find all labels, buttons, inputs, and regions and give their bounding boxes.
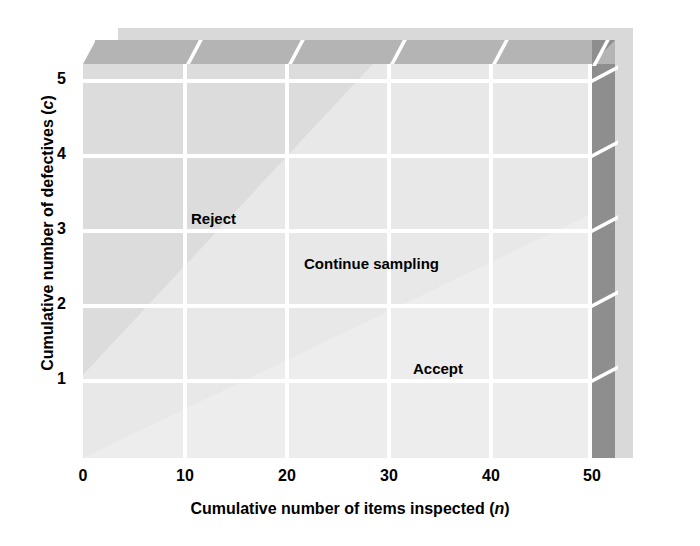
- gridline-x-40: [489, 64, 493, 458]
- y-axis-title-text: Cumulative number of defectives (: [39, 109, 56, 370]
- xtick-label-0: 0: [79, 467, 88, 485]
- y-axis-title-suffix: ): [39, 95, 56, 100]
- xtick-label-50: 50: [583, 467, 601, 485]
- block-top-face: [95, 40, 615, 64]
- y-axis-title-variable: c: [39, 101, 56, 110]
- xtick-label-30: 30: [380, 467, 398, 485]
- gridline-x-50: [588, 64, 592, 458]
- gridline-x-10: [183, 64, 187, 458]
- plot-area: Reject Continue sampling Accept: [83, 64, 592, 458]
- gridline-y-3: [83, 229, 592, 233]
- region-label-accept: Accept: [413, 360, 463, 377]
- gridline-y-1: [83, 379, 592, 383]
- y-axis-title: Cumulative number of defectives (c): [39, 33, 57, 433]
- x-axis-title-text: Cumulative number of items inspected (: [190, 500, 494, 517]
- gridline-x-20: [285, 64, 289, 458]
- x-axis-title-variable: n: [494, 500, 504, 517]
- xtick-label-20: 20: [278, 467, 296, 485]
- region-label-continue: Continue sampling: [304, 255, 439, 272]
- block-top-left-bevel: [83, 40, 96, 64]
- chart-figure: Reject Continue sampling Accept 0 10 20 …: [0, 0, 700, 546]
- gridline-y-5: [83, 79, 592, 83]
- xtick-label-40: 40: [482, 467, 500, 485]
- gridline-y-4: [83, 154, 592, 158]
- x-axis-title-suffix: ): [504, 500, 509, 517]
- block-right-side-face: [592, 64, 615, 458]
- gridline-y-2: [83, 304, 592, 308]
- region-label-reject: Reject: [191, 210, 236, 227]
- xtick-label-10: 10: [176, 467, 194, 485]
- x-axis-title: Cumulative number of items inspected (n): [0, 500, 700, 518]
